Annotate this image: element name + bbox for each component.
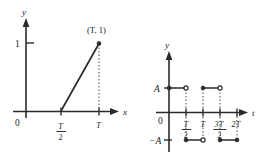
left-y-axis-arrow bbox=[23, 18, 30, 27]
right-x-tick-label-half-T: T 2 bbox=[182, 120, 191, 140]
left-y-axis bbox=[23, 18, 30, 118]
right-endpoint-open-T-low bbox=[201, 138, 205, 142]
right-origin-label: 0 bbox=[158, 116, 163, 126]
left-x-axis bbox=[13, 108, 119, 115]
svg-text:2: 2 bbox=[59, 133, 63, 142]
svg-text:3T: 3T bbox=[214, 120, 225, 129]
right-endpoint-open-three-half-T-high bbox=[218, 86, 222, 90]
right-y-tick-label-minus-A: −A bbox=[149, 136, 161, 146]
right-x-axis-label: t bbox=[252, 108, 255, 118]
left-y-axis-label: y bbox=[21, 7, 26, 17]
right-endpoint-filled-half-T-low bbox=[184, 138, 188, 142]
left-x-tick-label-half-T: T 2 bbox=[57, 122, 67, 142]
left-ramp-line bbox=[61, 44, 99, 112]
right-y-axis bbox=[166, 51, 173, 152]
right-endpoint-filled-two-T-low bbox=[235, 138, 239, 142]
left-x-axis-arrow bbox=[110, 108, 119, 115]
left-y-tick-label-1: 1 bbox=[15, 39, 20, 49]
right-endpoint-filled-T-high bbox=[201, 86, 205, 90]
right-panel-square-wave-plot: y t 0 A −A T 2 T 3T bbox=[138, 0, 276, 158]
right-y-axis-arrow bbox=[166, 51, 173, 60]
right-x-axis-arrow bbox=[239, 109, 248, 116]
left-origin-label: 0 bbox=[15, 118, 20, 128]
right-endpoint-filled-0 bbox=[167, 86, 171, 90]
left-point-marker-T-1 bbox=[97, 42, 101, 46]
right-y-tick-label-A: A bbox=[153, 84, 160, 94]
svg-text:T: T bbox=[58, 122, 64, 131]
right-x-axis bbox=[156, 109, 248, 116]
left-plot-svg: y x 0 1 T 2 T (T, bbox=[0, 0, 138, 158]
left-panel-ramp-plot: y x 0 1 T 2 T (T, bbox=[0, 0, 138, 158]
right-endpoint-filled-three-half-T-low bbox=[218, 138, 222, 142]
figure-root: y x 0 1 T 2 T (T, bbox=[0, 0, 276, 158]
left-x-axis-label: x bbox=[122, 107, 127, 117]
left-x-tick-label-T: T bbox=[96, 121, 102, 130]
left-point-annotation: (T, 1) bbox=[87, 25, 106, 35]
right-plot-svg: y t 0 A −A T 2 T 3T bbox=[138, 0, 276, 158]
right-endpoint-open-half-T-high bbox=[184, 86, 188, 90]
right-y-axis-label: y bbox=[164, 40, 169, 50]
right-x-tick-label-three-half-T: 3T 2 bbox=[213, 120, 226, 140]
